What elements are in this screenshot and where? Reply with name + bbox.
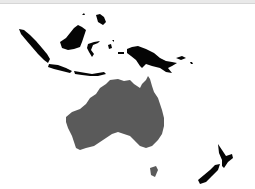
new-zealand-north-island xyxy=(218,144,233,168)
borneo-landmass xyxy=(60,25,86,50)
lesser-sunda-islands xyxy=(74,71,106,76)
new-britain-island xyxy=(176,56,186,60)
new-zealand-south-island xyxy=(198,164,220,184)
java-landmass xyxy=(48,64,72,73)
tasmania-landmass xyxy=(150,166,158,177)
australia-landmass xyxy=(66,76,164,150)
new-guinea-landmass xyxy=(127,46,177,73)
sumatra-landmass xyxy=(19,29,50,63)
locator-map xyxy=(0,0,255,189)
solomon-islands xyxy=(190,62,193,64)
philippines-landmass xyxy=(82,13,106,25)
maluku-islands xyxy=(108,40,124,54)
sulawesi-landmass xyxy=(87,41,100,57)
